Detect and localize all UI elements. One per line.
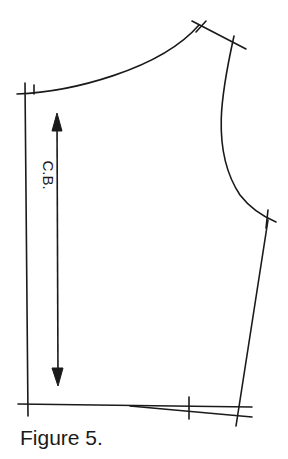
- figure-caption: Figure 5.: [20, 426, 103, 450]
- grainline-label: C.B.: [38, 155, 58, 195]
- shoulder-line: [192, 21, 246, 49]
- pattern-diagram: [0, 0, 288, 459]
- side-seam-line: [236, 220, 268, 426]
- waist-line-shaped: [130, 406, 252, 417]
- neckline-curve: [17, 25, 199, 94]
- armhole-curve: [221, 36, 276, 222]
- grainline-arrow: [52, 113, 63, 386]
- center-back-line: [25, 83, 28, 416]
